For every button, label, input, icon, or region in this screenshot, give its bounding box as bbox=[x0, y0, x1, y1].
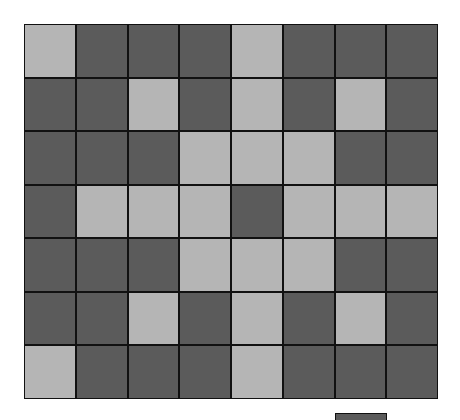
grid-cell-r6-c4[interactable] bbox=[232, 346, 282, 398]
game-stage bbox=[0, 0, 460, 420]
grid-cell-r4-c3[interactable] bbox=[180, 239, 230, 291]
grid-cell-r0-c5[interactable] bbox=[284, 25, 334, 77]
grid-cell-r5-c5[interactable] bbox=[284, 293, 334, 345]
grid-cell-r1-c0[interactable] bbox=[25, 79, 75, 131]
grid-cell-r2-c6[interactable] bbox=[336, 132, 386, 184]
grid-cell-r1-c1[interactable] bbox=[77, 79, 127, 131]
grid-cell-r2-c2[interactable] bbox=[129, 132, 179, 184]
grid-cell-r5-c6[interactable] bbox=[336, 293, 386, 345]
grid-cell-r1-c7[interactable] bbox=[387, 79, 437, 131]
grid-cell-r4-c2[interactable] bbox=[129, 239, 179, 291]
grid-cell-r3-c4[interactable] bbox=[232, 186, 282, 238]
grid-cell-r5-c4[interactable] bbox=[232, 293, 282, 345]
grid-cell-r0-c2[interactable] bbox=[129, 25, 179, 77]
grid-cell-r2-c3[interactable] bbox=[180, 132, 230, 184]
grid-cell-r4-c0[interactable] bbox=[25, 239, 75, 291]
grid-cell-r0-c6[interactable] bbox=[336, 25, 386, 77]
grid-cell-r4-c7[interactable] bbox=[387, 239, 437, 291]
grid-cell-r3-c6[interactable] bbox=[336, 186, 386, 238]
grid-cell-r2-c5[interactable] bbox=[284, 132, 334, 184]
grid-cell-r3-c3[interactable] bbox=[180, 186, 230, 238]
grid-cell-r6-c5[interactable] bbox=[284, 346, 334, 398]
grid-cell-r0-c7[interactable] bbox=[387, 25, 437, 77]
grid-cell-r5-c7[interactable] bbox=[387, 293, 437, 345]
game-board bbox=[24, 24, 438, 399]
grid-cell-r2-c4[interactable] bbox=[232, 132, 282, 184]
grid-cell-r2-c1[interactable] bbox=[77, 132, 127, 184]
grid-cell-r2-c0[interactable] bbox=[25, 132, 75, 184]
grid-cell-r6-c1[interactable] bbox=[77, 346, 127, 398]
grid-cell-r4-c5[interactable] bbox=[284, 239, 334, 291]
grid-cell-r5-c2[interactable] bbox=[129, 293, 179, 345]
grid-cell-r0-c1[interactable] bbox=[77, 25, 127, 77]
grid-cell-r0-c3[interactable] bbox=[180, 25, 230, 77]
grid-cell-r3-c2[interactable] bbox=[129, 186, 179, 238]
grid-cell-r4-c1[interactable] bbox=[77, 239, 127, 291]
grid-cell-r6-c6[interactable] bbox=[336, 346, 386, 398]
grid-cell-r6-c3[interactable] bbox=[180, 346, 230, 398]
grid-cell-r4-c6[interactable] bbox=[336, 239, 386, 291]
grid-cell-r5-c0[interactable] bbox=[25, 293, 75, 345]
grid-cell-r6-c0[interactable] bbox=[25, 346, 75, 398]
grid-cell-r5-c3[interactable] bbox=[180, 293, 230, 345]
grid-cell-r6-c7[interactable] bbox=[387, 346, 437, 398]
grid-cell-r1-c3[interactable] bbox=[180, 79, 230, 131]
grid-cell-r3-c0[interactable] bbox=[25, 186, 75, 238]
grid-cell-r1-c2[interactable] bbox=[129, 79, 179, 131]
grid-cell-r0-c4[interactable] bbox=[232, 25, 282, 77]
grid-cell-r1-c6[interactable] bbox=[336, 79, 386, 131]
grid-cell-r3-c7[interactable] bbox=[387, 186, 437, 238]
grid-cell-r0-c0[interactable] bbox=[25, 25, 75, 77]
grid-cell-r4-c4[interactable] bbox=[232, 239, 282, 291]
grid-cell-r3-c5[interactable] bbox=[284, 186, 334, 238]
grid-cell-r2-c7[interactable] bbox=[387, 132, 437, 184]
grid-cell-r3-c1[interactable] bbox=[77, 186, 127, 238]
grid-cell-r1-c5[interactable] bbox=[284, 79, 334, 131]
grid-cell-r5-c1[interactable] bbox=[77, 293, 127, 345]
grid-cell-r6-c2[interactable] bbox=[129, 346, 179, 398]
grid-cell-r1-c4[interactable] bbox=[232, 79, 282, 131]
state-indicator[interactable] bbox=[335, 413, 387, 420]
